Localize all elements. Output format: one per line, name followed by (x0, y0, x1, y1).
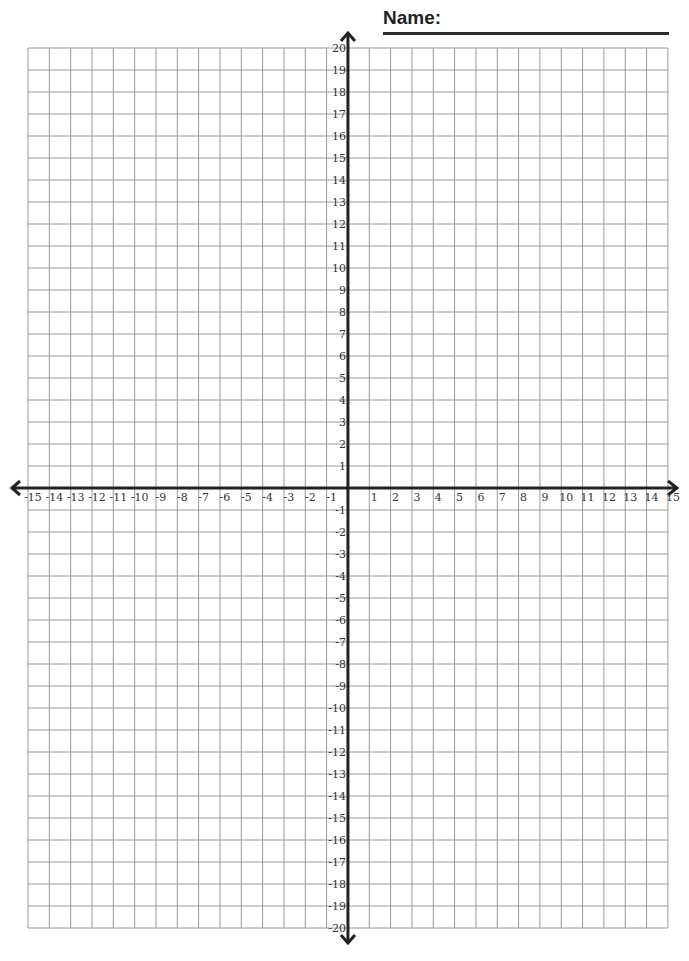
y-tick-label: -7 (335, 636, 346, 649)
x-tick-label: 4 (435, 491, 442, 504)
x-tick-label: 7 (499, 491, 506, 504)
y-tick-label: -17 (328, 856, 346, 869)
y-tick-label: 14 (332, 174, 346, 187)
y-tick-label: 7 (339, 328, 346, 341)
y-tick-label: 18 (332, 86, 346, 99)
x-tick-label: -1 (326, 491, 337, 504)
y-tick-label: 11 (332, 240, 346, 253)
y-tick-label: 3 (339, 416, 346, 429)
y-tick-label: 8 (339, 306, 346, 319)
x-axis-labels: -15-14-13-12-11-10-9-8-7-6-5-4-3-2-11234… (24, 491, 680, 504)
y-tick-label: -20 (328, 922, 346, 935)
y-tick-label: 12 (332, 218, 346, 231)
x-tick-label: 2 (392, 491, 399, 504)
y-tick-label: 4 (339, 394, 346, 407)
y-tick-label: 9 (339, 284, 346, 297)
y-tick-label: 6 (339, 350, 346, 363)
axes (12, 33, 677, 943)
y-tick-label: -2 (335, 526, 346, 539)
x-tick-label: -9 (156, 491, 167, 504)
y-tick-label: -10 (328, 702, 346, 715)
x-tick-label: -15 (24, 491, 42, 504)
x-tick-label: 5 (456, 491, 463, 504)
y-tick-label: -4 (335, 570, 346, 583)
x-tick-label: -10 (131, 491, 149, 504)
y-tick-label: 5 (339, 372, 346, 385)
y-tick-label: -11 (328, 724, 346, 737)
x-tick-label: 14 (645, 491, 659, 504)
x-tick-label: 8 (520, 491, 527, 504)
x-tick-label: -14 (45, 491, 63, 504)
x-tick-label: 3 (413, 491, 420, 504)
y-tick-label: 15 (332, 152, 346, 165)
y-tick-label: -14 (328, 790, 346, 803)
x-tick-label: 9 (541, 491, 548, 504)
x-tick-label: -11 (109, 491, 127, 504)
y-tick-label: -9 (335, 680, 346, 693)
x-tick-label: -6 (220, 491, 231, 504)
y-tick-label: 13 (332, 196, 346, 209)
y-tick-label: -12 (328, 746, 346, 759)
y-tick-label: 2 (339, 438, 346, 451)
x-tick-label: 1 (371, 491, 378, 504)
x-tick-label: -12 (88, 491, 106, 504)
x-tick-label: -2 (305, 491, 316, 504)
y-tick-label: -15 (328, 812, 346, 825)
x-tick-label: 6 (477, 491, 484, 504)
y-tick-label: -8 (335, 658, 346, 671)
x-tick-label: 11 (581, 491, 595, 504)
y-tick-label: -19 (328, 900, 346, 913)
y-tick-label: -5 (335, 592, 346, 605)
coordinate-grid: -15-14-13-12-11-10-9-8-7-6-5-4-3-2-11234… (0, 0, 689, 961)
y-tick-label: 17 (332, 108, 346, 121)
y-tick-label: -6 (335, 614, 346, 627)
x-tick-label: -5 (241, 491, 252, 504)
y-tick-label: -16 (328, 834, 346, 847)
y-tick-label: 1 (339, 460, 346, 473)
y-tick-label: -18 (328, 878, 346, 891)
y-tick-label: -13 (328, 768, 346, 781)
x-tick-label: 12 (602, 491, 616, 504)
y-tick-label: 19 (332, 64, 346, 77)
y-tick-label: -3 (335, 548, 346, 561)
x-tick-label: 13 (623, 491, 637, 504)
x-tick-label: -3 (284, 491, 295, 504)
y-tick-label: 16 (332, 130, 346, 143)
x-tick-label: -8 (177, 491, 188, 504)
x-tick-label: -13 (67, 491, 85, 504)
y-tick-label: 20 (332, 42, 346, 55)
x-tick-label: -7 (198, 491, 209, 504)
y-tick-label: -1 (335, 504, 346, 517)
x-tick-label: 10 (559, 491, 573, 504)
x-tick-label: 15 (666, 491, 680, 504)
y-tick-label: 10 (332, 262, 346, 275)
x-tick-label: -4 (262, 491, 273, 504)
